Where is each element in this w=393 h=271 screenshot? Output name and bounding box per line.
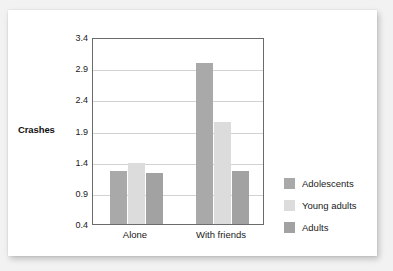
gridline	[93, 70, 263, 71]
bar	[214, 122, 231, 224]
y-axis-tick-label: 1.9	[62, 127, 88, 137]
legend-item-label: Adults	[302, 222, 328, 233]
legend-swatch-icon	[284, 178, 295, 189]
bar	[110, 171, 127, 224]
legend-item-label: Young adults	[302, 200, 357, 211]
y-axis-tick-label: 2.9	[62, 64, 88, 74]
legend-swatch-icon	[284, 200, 295, 211]
y-axis-tick-label: 2.4	[62, 95, 88, 105]
bar	[128, 163, 145, 224]
y-axis-tick-label: 0.4	[62, 220, 88, 230]
y-axis-tick-label: 0.9	[62, 189, 88, 199]
legend-item-label: Adolescents	[302, 178, 354, 189]
chart-legend: AdolescentsYoung adultsAdults	[284, 175, 357, 241]
gridline	[93, 133, 263, 134]
legend-item: Adolescents	[284, 175, 357, 192]
legend-item: Young adults	[284, 197, 357, 214]
gridline	[93, 164, 263, 165]
legend-item: Adults	[284, 219, 357, 236]
figure-card: Crashes 0.40.91.41.92.42.93.4 AloneWith …	[8, 10, 377, 256]
y-axis-tick-label: 1.4	[62, 158, 88, 168]
legend-swatch-icon	[284, 222, 295, 233]
bar-chart: Crashes 0.40.91.41.92.42.93.4 AloneWith …	[8, 10, 377, 256]
gridline	[93, 101, 263, 102]
plot-area	[92, 38, 264, 225]
y-axis-tick-label: 3.4	[62, 33, 88, 43]
y-axis-tick-labels: 0.40.91.41.92.42.93.4	[58, 38, 88, 225]
bar	[146, 173, 163, 224]
x-axis-tick-label: With friends	[196, 229, 246, 240]
x-axis-tick-label: Alone	[123, 229, 147, 240]
bar	[196, 63, 213, 224]
bar	[232, 171, 249, 224]
